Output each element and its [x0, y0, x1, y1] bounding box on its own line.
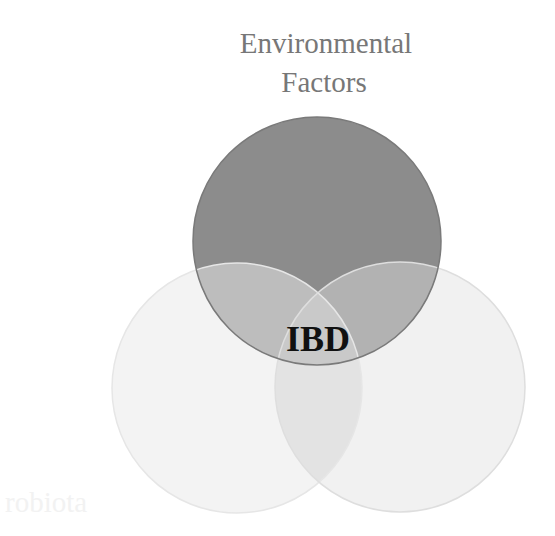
ibd-center-label: IBD [286, 319, 350, 359]
microbiota-label: robiota [5, 486, 87, 518]
environmental-factors-label-line1: Environmental [240, 27, 412, 59]
venn-diagram: Environmental Factors robiota IBD [0, 0, 555, 536]
environmental-factors-label-line2: Factors [281, 66, 366, 98]
